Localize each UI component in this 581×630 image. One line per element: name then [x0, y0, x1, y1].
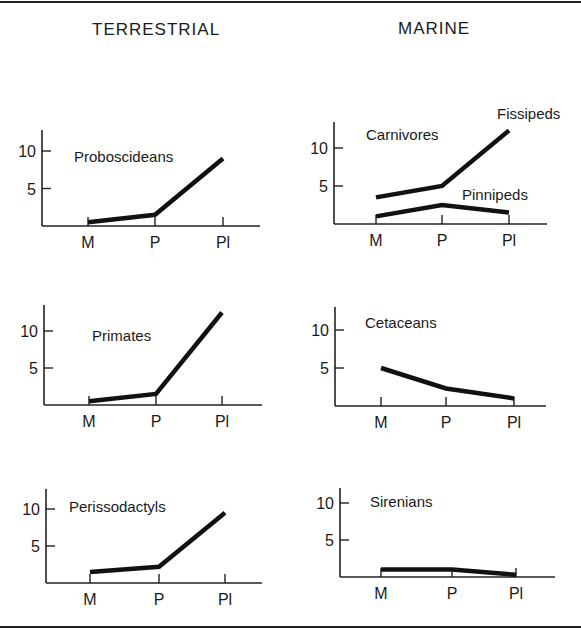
- panel-title-perissodactyls: Perissodactyls: [69, 498, 166, 515]
- panel-title-cetaceans: Cetaceans: [365, 314, 437, 331]
- panel-title-primates: Primates: [92, 327, 151, 344]
- panel-title-sirenians: Sirenians: [370, 493, 433, 510]
- panel-title-proboscideans: Proboscideans: [74, 148, 173, 165]
- series-label-fissipeds: Fissipeds: [497, 105, 560, 122]
- panel-title-carnivores: Carnivores: [366, 126, 439, 143]
- series-label-pinnipeds: Pinnipeds: [462, 186, 528, 203]
- panel-labels: Proboscideans Carnivores Fissipeds Pinni…: [0, 0, 581, 630]
